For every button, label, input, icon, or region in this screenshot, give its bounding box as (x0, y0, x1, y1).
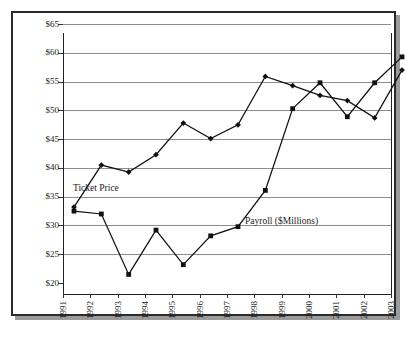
series-line-ticket-price (74, 70, 402, 207)
data-point-payroll-1993 (126, 272, 131, 277)
data-point-ticket-price-2001 (344, 98, 350, 104)
data-point-payroll-1994 (154, 228, 159, 233)
data-point-ticket-price-1998 (262, 74, 268, 80)
data-point-payroll-1995 (181, 262, 186, 267)
data-point-ticket-price-2002 (372, 115, 378, 121)
data-point-ticket-price-1997 (235, 122, 241, 128)
chart-plot-area (13, 13, 412, 337)
data-point-payroll-1999 (290, 106, 295, 111)
data-point-payroll-1997 (236, 224, 241, 229)
data-point-payroll-2003 (400, 54, 405, 59)
data-point-ticket-price-2003 (399, 67, 405, 73)
chart-frame: $65 $60 $55 $50 $45 $40 $35 $30 $25 $20 … (11, 11, 396, 316)
data-point-payroll-1998 (263, 188, 268, 193)
data-point-payroll-2000 (318, 80, 323, 85)
data-point-payroll-2002 (372, 80, 377, 85)
data-point-ticket-price-1999 (290, 83, 296, 89)
data-point-payroll-1992 (99, 212, 104, 217)
data-point-ticket-price-2000 (317, 93, 323, 99)
data-point-ticket-price-1996 (208, 136, 214, 142)
chart-page: $65 $60 $55 $50 $45 $40 $35 $30 $25 $20 … (0, 0, 412, 337)
data-point-payroll-2001 (345, 114, 350, 119)
data-point-payroll-1991 (72, 209, 77, 214)
data-point-ticket-price-1993 (126, 169, 132, 175)
series-line-payroll (74, 57, 402, 275)
data-point-payroll-1996 (208, 233, 213, 238)
